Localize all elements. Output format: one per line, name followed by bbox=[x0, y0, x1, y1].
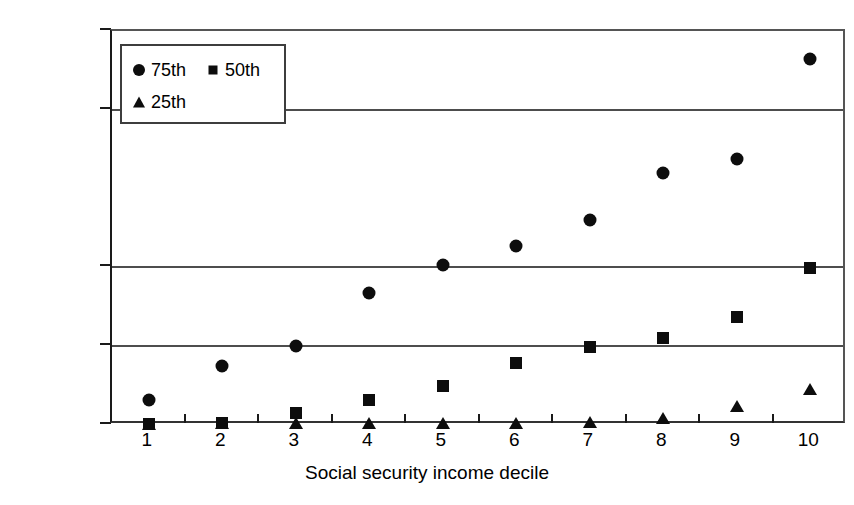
data-point-75th bbox=[657, 166, 670, 179]
square-glyph bbox=[209, 66, 218, 75]
x-tick-label: 8 bbox=[656, 429, 667, 451]
data-point-25th bbox=[730, 400, 744, 412]
data-point-75th bbox=[730, 153, 743, 166]
data-point-75th bbox=[510, 239, 523, 252]
x-tick-mark bbox=[331, 414, 333, 423]
x-tick-label: 4 bbox=[362, 429, 373, 451]
data-point-50th bbox=[584, 341, 596, 353]
data-point-75th bbox=[804, 52, 817, 65]
data-point-75th bbox=[436, 259, 449, 272]
data-point-75th bbox=[289, 340, 302, 353]
x-tick-mark bbox=[551, 414, 553, 423]
x-tick-label: 10 bbox=[798, 429, 819, 451]
chart-figure: $20,000$16,000$16,000$8,000$4,000$0 1234… bbox=[0, 0, 854, 505]
data-point-25th bbox=[362, 417, 376, 429]
legend-entry-50th[interactable]: 50th bbox=[206, 60, 260, 81]
x-tick-label: 3 bbox=[288, 429, 299, 451]
gridline bbox=[112, 266, 843, 268]
legend-label: 75th bbox=[151, 60, 186, 81]
chart-legend: 75th50th25th bbox=[120, 44, 286, 124]
x-tick-label: 2 bbox=[215, 429, 226, 451]
data-point-50th bbox=[510, 357, 522, 369]
x-tick-label: 9 bbox=[729, 429, 740, 451]
data-point-50th bbox=[804, 262, 816, 274]
data-point-75th bbox=[583, 214, 596, 227]
x-tick-mark bbox=[478, 414, 480, 423]
data-point-25th bbox=[215, 417, 229, 429]
x-tick-mark bbox=[772, 414, 774, 423]
circle-marker-icon bbox=[132, 63, 146, 77]
legend-label: 50th bbox=[225, 60, 260, 81]
data-point-50th bbox=[657, 332, 669, 344]
legend-entry-25th[interactable]: 25th bbox=[132, 92, 186, 113]
triangle-glyph bbox=[133, 97, 145, 108]
data-point-50th bbox=[437, 380, 449, 392]
data-point-75th bbox=[216, 359, 229, 372]
x-tick-label: 1 bbox=[141, 429, 152, 451]
data-point-25th bbox=[583, 416, 597, 428]
circle-glyph bbox=[133, 64, 145, 76]
legend-row: 25th bbox=[132, 86, 274, 118]
x-tick-label: 7 bbox=[582, 429, 593, 451]
x-tick-mark bbox=[625, 414, 627, 423]
data-point-50th bbox=[363, 394, 375, 406]
triangle-marker-icon bbox=[132, 95, 146, 109]
x-tick-mark bbox=[184, 414, 186, 423]
data-point-25th bbox=[509, 417, 523, 429]
x-tick-mark bbox=[698, 414, 700, 423]
data-point-75th bbox=[363, 287, 376, 300]
data-point-50th bbox=[731, 311, 743, 323]
x-tick-mark bbox=[404, 414, 406, 423]
data-point-25th bbox=[436, 417, 450, 429]
legend-label: 25th bbox=[151, 92, 186, 113]
data-point-25th bbox=[656, 412, 670, 424]
legend-row: 75th50th bbox=[132, 54, 274, 86]
legend-entry-75th[interactable]: 75th bbox=[132, 60, 186, 81]
x-tick-mark bbox=[257, 414, 259, 423]
square-marker-icon bbox=[206, 63, 220, 77]
x-axis-title: Social security income decile bbox=[0, 462, 854, 484]
gridline bbox=[112, 345, 843, 347]
x-tick-label: 5 bbox=[435, 429, 446, 451]
x-tick-label: 6 bbox=[509, 429, 520, 451]
data-point-25th bbox=[803, 383, 817, 395]
data-point-75th bbox=[142, 394, 155, 407]
data-point-25th bbox=[289, 417, 303, 429]
